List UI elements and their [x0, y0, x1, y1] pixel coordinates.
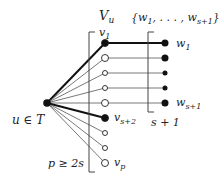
- w-nodes: [162, 40, 169, 107]
- w-node: [162, 100, 169, 107]
- v-nodes: [102, 40, 109, 167]
- label-w1: w1: [176, 37, 191, 52]
- edge-hub-v: [47, 88, 105, 103]
- label-count-w: s + 1: [151, 116, 180, 129]
- v-node: [102, 100, 109, 107]
- edge-hub-v: [47, 103, 105, 163]
- w-node: [163, 71, 168, 76]
- v-node: [102, 55, 109, 62]
- label-ws1: ws+1: [176, 96, 201, 111]
- v-node: [103, 86, 108, 91]
- edge-hub-v: [47, 58, 105, 103]
- label-vp: vp: [114, 156, 125, 171]
- w-node: [163, 86, 168, 91]
- v-node: [102, 160, 109, 167]
- edge-hub-v: [47, 103, 105, 133]
- edge-hub-v: [47, 43, 105, 103]
- v-node: [102, 115, 109, 122]
- edge-hub-v: [47, 73, 105, 103]
- label-vs2: vs+2: [114, 111, 136, 126]
- w-node: [162, 40, 169, 47]
- label-hub: u ∈ T: [12, 113, 45, 127]
- hub-node: [43, 99, 51, 107]
- v-node: [103, 146, 108, 151]
- v-node: [103, 71, 108, 76]
- w-node: [162, 55, 169, 62]
- label-set-w: {w1, . . . , ws+1}: [131, 11, 220, 26]
- graph-diagram: Vu {w1, . . . , ws+1} v1 w1 ws+1 u ∈ T v…: [0, 0, 221, 183]
- v-node: [103, 131, 108, 136]
- label-count-v: p ≥ 2s: [48, 157, 84, 170]
- brackets: [89, 32, 154, 172]
- edge-hub-v: [47, 103, 105, 118]
- label-set-v: Vu: [99, 8, 114, 25]
- label-v1: v1: [99, 26, 110, 41]
